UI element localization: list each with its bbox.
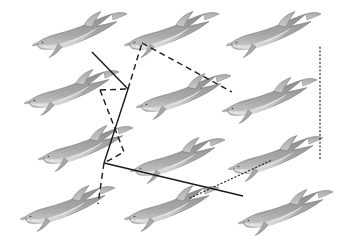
edge-e-dash-top-node: Dashed edge up to top-centre dolphin [128, 43, 142, 89]
edge-e-solid-upper-left: Solid edge to upper-left dolphin [92, 52, 128, 89]
connector-layer: Solid edge to upper-left dolphinSolid sp… [0, 0, 352, 243]
edge-e-dot-lower-right: Dotted edge to lower-right dolphin [190, 160, 272, 198]
edge-e-solid-lower-right: Solid edge to lower-right dolphin [104, 163, 243, 196]
edge-e-dash-mid-left: Dashed edge to middle-left dolphin [100, 89, 128, 90]
edge-e-dash-bottom-left: Dashed edge to bottom-left dolphin [98, 163, 104, 204]
dolphin-network-figure: Solid edge to upper-left dolphinSolid sp… [0, 0, 352, 243]
edge-e-dash-lower-spine: Dashed edge down through grid [100, 90, 124, 163]
edge-e-dash-top-right: Dashed edge to middle-right dolphin [142, 43, 232, 92]
edge-e-solid-upper-spine: Solid spine between junctions [104, 89, 128, 163]
edge-group: Solid edge to upper-left dolphinSolid sp… [92, 43, 320, 204]
